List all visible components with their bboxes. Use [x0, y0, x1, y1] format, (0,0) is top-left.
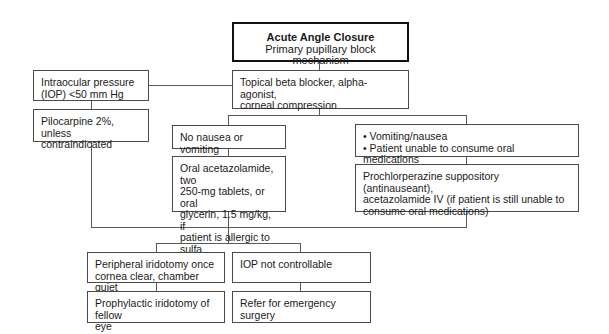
node-label: Peripheral iridotomy once cornea clear, … — [95, 259, 217, 294]
diagram-subtitle: Primary pupillary block mechanism — [238, 44, 403, 67]
connector — [466, 115, 467, 124]
connector — [300, 282, 301, 291]
node-label: Intraocular pressure (IOP) <50 mm Hg — [41, 77, 141, 100]
node-topical: Topical beta blocker, alpha-agonist, cor… — [232, 70, 409, 109]
node-peripheral-iridotomy: Peripheral iridotomy once cornea clear, … — [87, 252, 225, 283]
node-vomiting: • Vomiting/nausea • Patient unable to co… — [355, 124, 579, 157]
connector — [228, 115, 229, 125]
node-label: No nausea or vomiting — [180, 132, 278, 155]
connector — [300, 243, 301, 252]
title-box: Acute Angle Closure Primary pupillary bl… — [232, 22, 409, 62]
connector — [91, 141, 92, 228]
node-oral-acetazolamide: Oral acetazolamide, two 250-mg tablets, … — [172, 156, 286, 212]
connector — [91, 100, 92, 109]
diagram-title: Acute Angle Closure — [238, 32, 403, 44]
node-no-nausea: No nausea or vomiting — [172, 125, 286, 149]
connector — [156, 243, 157, 252]
node-pilocarpine: Pilocarpine 2%, unless contraindicated — [33, 109, 149, 142]
connector — [228, 115, 467, 116]
node-iop-low: Intraocular pressure (IOP) <50 mm Hg — [33, 70, 149, 101]
node-label: IOP not controllable — [240, 259, 363, 271]
node-label: Topical beta blocker, alpha-agonist, cor… — [240, 77, 401, 112]
node-label: Prochlorperazine suppository (antinausea… — [363, 171, 571, 217]
node-iop-not-controllable: IOP not controllable — [232, 252, 371, 283]
node-label: Oral acetazolamide, two 250-mg tablets, … — [180, 163, 278, 255]
node-prochlorperazine: Prochlorperazine suppository (antinausea… — [355, 164, 579, 212]
connector — [148, 85, 232, 86]
node-label: • Vomiting/nausea • Patient unable to co… — [363, 131, 571, 166]
connector — [91, 227, 467, 228]
node-label: Refer for emergency surgery — [240, 298, 363, 321]
node-refer-surgery: Refer for emergency surgery — [232, 291, 371, 323]
node-label: Pilocarpine 2%, unless contraindicated — [41, 116, 141, 151]
node-label: Prophylactic iridotomy of fellow eye — [95, 298, 217, 333]
node-prophylactic-iridotomy: Prophylactic iridotomy of fellow eye — [87, 291, 225, 323]
